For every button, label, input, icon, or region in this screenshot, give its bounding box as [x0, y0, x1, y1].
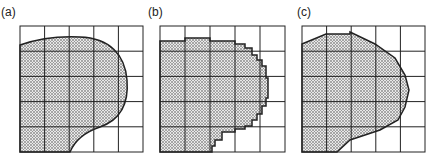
panel-a: [20, 26, 143, 152]
region-staircase: [160, 38, 268, 152]
region-smooth: [20, 37, 127, 152]
panel-b: [160, 26, 285, 152]
diagram-canvas: [0, 0, 442, 161]
region-polygon: [302, 32, 409, 152]
panel-c: [302, 26, 425, 152]
